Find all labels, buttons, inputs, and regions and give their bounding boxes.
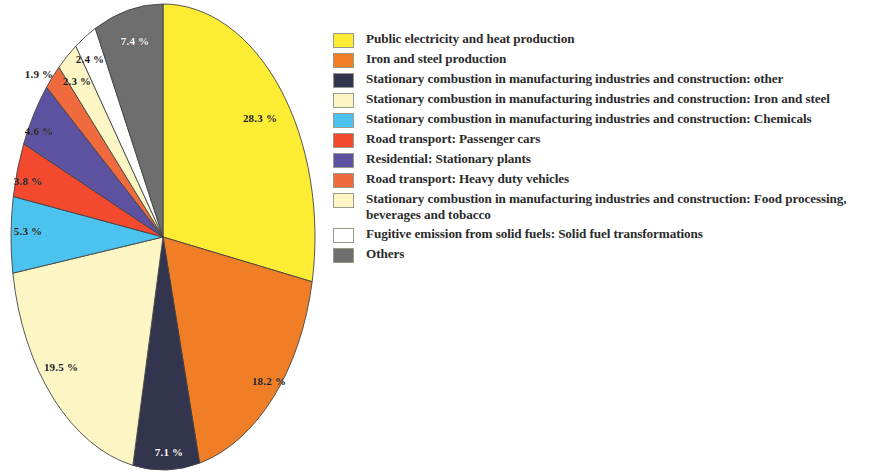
legend-color-swatch bbox=[333, 93, 354, 108]
legend-color-swatch bbox=[333, 193, 354, 208]
legend-item[interactable]: Stationary combustion in manufacturing i… bbox=[333, 91, 888, 108]
legend-item[interactable]: Others bbox=[333, 246, 888, 263]
legend-item[interactable]: Stationary combustion in manufacturing i… bbox=[333, 191, 888, 223]
pie-slice-percent-label: 7.1 % bbox=[155, 446, 184, 458]
pie-slice-percent-label: 1.9 % bbox=[25, 68, 54, 80]
legend-item[interactable]: Iron and steel production bbox=[333, 51, 888, 68]
legend-color-swatch bbox=[333, 113, 354, 128]
legend-color-swatch bbox=[333, 53, 354, 68]
pie-slice-percent-label: 18.2 % bbox=[252, 375, 286, 387]
legend-item-label: Fugitive emission from solid fuels: Soli… bbox=[366, 226, 703, 242]
pie-chart-plot-area: 28.3 %18.2 %7.1 %19.5 %5.3 %3.8 %4.6 %1.… bbox=[0, 0, 330, 473]
legend-item-label: Stationary combustion in manufacturing i… bbox=[366, 111, 811, 127]
legend-item-label: Iron and steel production bbox=[366, 51, 506, 67]
legend-item[interactable]: Road transport: Passenger cars bbox=[333, 131, 888, 148]
pie-slice-percent-label: 19.5 % bbox=[44, 361, 78, 373]
legend-item-label: Stationary combustion in manufacturing i… bbox=[366, 191, 888, 223]
legend-item-label: Residential: Stationary plants bbox=[366, 151, 531, 167]
legend-color-swatch bbox=[333, 33, 354, 48]
legend-item[interactable]: Stationary combustion in manufacturing i… bbox=[333, 71, 888, 88]
pie-slice-percent-label: 4.6 % bbox=[25, 125, 54, 137]
legend-color-swatch bbox=[333, 173, 354, 188]
pie-slice-percent-label: 5.3 % bbox=[14, 225, 43, 237]
legend-item[interactable]: Public electricity and heat production bbox=[333, 31, 888, 48]
legend-color-swatch bbox=[333, 248, 354, 263]
legend-item-label: Public electricity and heat production bbox=[366, 31, 574, 47]
pie-slice-percent-label: 3.8 % bbox=[14, 175, 43, 187]
chart-legend: Public electricity and heat productionIr… bbox=[333, 31, 888, 266]
legend-item-label: Others bbox=[366, 246, 404, 262]
legend-item-label: Stationary combustion in manufacturing i… bbox=[366, 71, 783, 87]
legend-item[interactable]: Road transport: Heavy duty vehicles bbox=[333, 171, 888, 188]
pie-slice[interactable] bbox=[163, 4, 315, 282]
pie-slices-group bbox=[11, 4, 315, 470]
legend-item[interactable]: Stationary combustion in manufacturing i… bbox=[333, 111, 888, 128]
legend-color-swatch bbox=[333, 133, 354, 148]
legend-item-label: Road transport: Heavy duty vehicles bbox=[366, 171, 569, 187]
legend-color-swatch bbox=[333, 228, 354, 243]
legend-item[interactable]: Residential: Stationary plants bbox=[333, 151, 888, 168]
pie-slice-percent-label: 2.4 % bbox=[76, 53, 105, 65]
pie-slice-percent-label: 2.3 % bbox=[63, 75, 92, 87]
pie-slice-percent-label: 28.3 % bbox=[243, 112, 277, 124]
legend-item[interactable]: Fugitive emission from solid fuels: Soli… bbox=[333, 226, 888, 243]
legend-item-label: Road transport: Passenger cars bbox=[366, 131, 540, 147]
pie-chart-figure: 28.3 %18.2 %7.1 %19.5 %5.3 %3.8 %4.6 %1.… bbox=[0, 0, 888, 473]
pie-slice-percent-label: 7.4 % bbox=[121, 35, 150, 47]
legend-item-label: Stationary combustion in manufacturing i… bbox=[366, 91, 830, 107]
legend-color-swatch bbox=[333, 73, 354, 88]
legend-color-swatch bbox=[333, 153, 354, 168]
